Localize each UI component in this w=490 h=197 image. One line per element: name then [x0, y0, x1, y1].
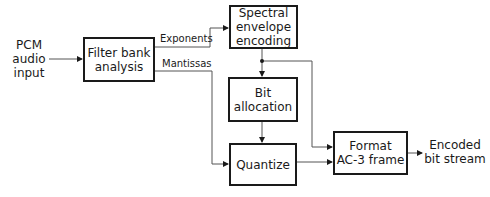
- exponents-label: Exponents: [160, 33, 213, 45]
- output-label: Encoded bit stream: [424, 138, 486, 166]
- filter-bank-block: Filter bank analysis: [83, 37, 155, 82]
- bit-allocation-block: Bit allocation: [228, 77, 298, 122]
- input-label: PCM audio input: [8, 38, 50, 80]
- bit-allocation-label: Bit allocation: [234, 86, 292, 114]
- quantize-block: Quantize: [229, 143, 297, 186]
- format-frame-block: Format AC-3 frame: [333, 131, 408, 175]
- format-frame-label: Format AC-3 frame: [337, 139, 405, 167]
- mantissas-label: Mantissas: [162, 58, 212, 70]
- quantize-label: Quantize: [236, 158, 290, 172]
- filter-bank-label: Filter bank analysis: [87, 46, 150, 74]
- spectral-envelope-label: Spectral envelope encoding: [236, 6, 291, 48]
- spectral-envelope-block: Spectral envelope encoding: [229, 5, 298, 49]
